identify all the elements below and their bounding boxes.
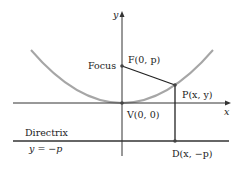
segment-fp bbox=[122, 66, 175, 85]
x-axis-label: x bbox=[224, 106, 230, 117]
y-axis-label: y bbox=[112, 9, 119, 20]
directrix-caption: Directrix bbox=[25, 127, 69, 138]
y-axis-arrow-icon bbox=[120, 11, 125, 17]
parabola-diagram: y x Focus F(0, p) P(x, y) V(0, 0) Direct… bbox=[0, 0, 239, 170]
focus-caption: Focus bbox=[88, 60, 116, 71]
focus-point bbox=[120, 64, 124, 68]
d-label: D(x, −p) bbox=[172, 148, 212, 159]
x-axis-arrow-icon bbox=[225, 101, 231, 106]
directrix-equation: y = −p bbox=[28, 143, 62, 154]
p-label: P(x, y) bbox=[182, 89, 213, 100]
d-point bbox=[173, 139, 177, 143]
vertex-point bbox=[120, 101, 124, 105]
focus-label: F(0, p) bbox=[128, 54, 160, 65]
p-point bbox=[173, 83, 177, 87]
vertex-label: V(0, 0) bbox=[126, 109, 159, 120]
